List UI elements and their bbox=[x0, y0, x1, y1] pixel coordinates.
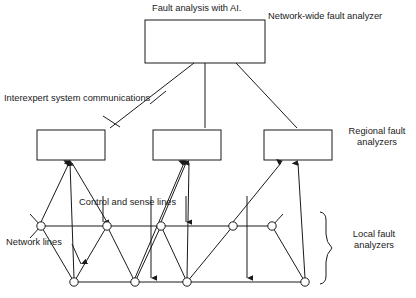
network-lines-diagonals bbox=[41, 226, 305, 282]
network-wide-fault-analyzer-box[interactable] bbox=[145, 20, 265, 63]
diagram-graphics bbox=[0, 0, 416, 298]
regional-fault-analyzer-box-right[interactable] bbox=[264, 130, 332, 160]
network-node bbox=[103, 222, 111, 230]
top-box-caption-label: Fault analysis with AI. bbox=[152, 3, 241, 14]
interexpert-system-communications-label: Interexpert system communications bbox=[4, 93, 150, 104]
network-node bbox=[183, 278, 191, 286]
local-fault-analyzers-label-line1: Local fault bbox=[341, 229, 407, 240]
network-node bbox=[70, 278, 78, 286]
interexpert-label-leader-2 bbox=[103, 116, 120, 127]
network-node bbox=[157, 222, 165, 230]
network-node bbox=[268, 222, 276, 230]
regional-fault-analyzer-box-left[interactable] bbox=[37, 130, 105, 160]
network-wide-fault-analyzer-label: Network-wide fault analyzer bbox=[268, 11, 382, 22]
regional-fault-analyzers-label-line2: analyzers bbox=[340, 137, 414, 148]
interexpert-label-leader bbox=[150, 91, 166, 104]
control-and-sense-lines bbox=[41, 163, 305, 278]
network-node bbox=[37, 222, 45, 230]
network-lines-label: Network lines bbox=[6, 237, 62, 248]
network-node bbox=[131, 278, 139, 286]
regional-fault-analyzers-label-line1: Regional fault bbox=[340, 126, 414, 137]
local-fault-analyzers-brace bbox=[320, 212, 332, 284]
network-node bbox=[301, 278, 309, 286]
regional-fault-analyzer-box-center[interactable] bbox=[153, 130, 221, 160]
control-and-sense-lines-label: Control and sense lines bbox=[79, 197, 176, 208]
control-sense-label-leaders bbox=[103, 196, 247, 278]
local-fault-analyzers-label-line2: analyzers bbox=[341, 240, 407, 251]
network-node bbox=[229, 222, 237, 230]
diagram-canvas: Fault analysis with AI. Network-wide fau… bbox=[0, 0, 416, 298]
